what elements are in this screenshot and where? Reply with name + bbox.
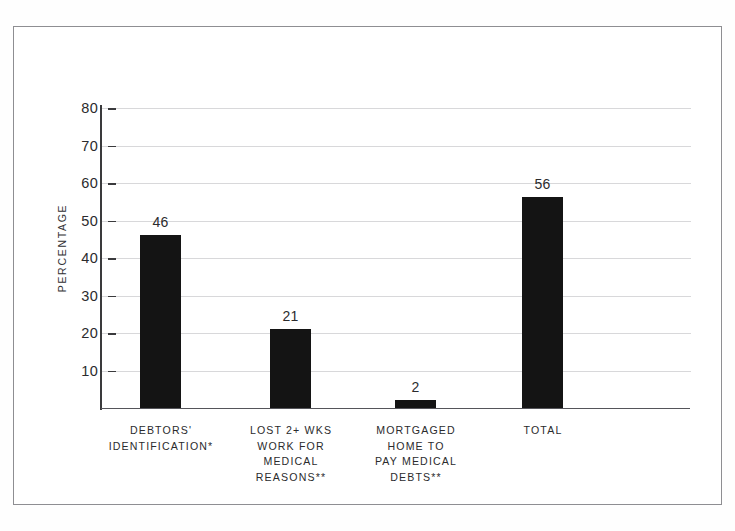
bar-value-lost-work: 21 [260,308,321,324]
y-tick-label-30: 30 [64,288,98,304]
y-tick-label-50: 50 [64,213,98,229]
bar-value-debtors-identification: 46 [130,214,191,230]
y-tick-label-70: 70 [64,138,98,154]
x-category-label-total: TOTAL [482,423,604,439]
y-tick-50 [108,221,116,223]
x-axis-line [101,408,690,410]
y-tick-30 [108,296,116,298]
y-tick-10 [108,371,116,373]
y-tick-label-20: 20 [64,325,98,341]
gridline-10 [102,371,691,372]
y-tick-label-80: 80 [64,100,98,116]
x-category-label-debtors-identification: DEBTORS' IDENTIFICATION* [100,423,222,454]
gridline-60 [102,183,691,184]
x-category-label-mortgaged-home: MORTGAGED HOME TO PAY MEDICAL DEBTS** [355,423,477,485]
gridline-80 [102,108,691,109]
bar-mortgaged-home [395,400,436,408]
y-tick-label-10: 10 [64,363,98,379]
bar-debtors-identification [140,235,181,408]
bar-value-total: 56 [512,176,573,192]
y-tick-20 [108,333,116,335]
y-tick-label-60: 60 [64,175,98,191]
y-tick-40 [108,258,116,260]
x-category-label-lost-work: LOST 2+ WKS WORK FOR MEDICAL REASONS** [230,423,352,485]
gridline-30 [102,296,691,297]
bar-total [522,197,563,408]
chart-figure: PERCENTAGE 80 70 60 50 40 30 20 10 [0,0,735,531]
gridline-20 [102,333,691,334]
gridline-70 [102,146,691,147]
bar-value-mortgaged-home: 2 [385,379,446,395]
y-tick-80 [108,108,116,110]
bar-lost-work [270,329,311,408]
gridline-40 [102,258,691,259]
y-tick-60 [108,183,116,185]
figure-border: PERCENTAGE 80 70 60 50 40 30 20 10 [13,26,722,505]
y-tick-label-40: 40 [64,250,98,266]
y-axis-line [100,105,102,410]
y-tick-70 [108,146,116,148]
